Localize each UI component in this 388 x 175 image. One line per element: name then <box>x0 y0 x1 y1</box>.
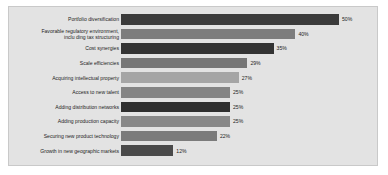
bar-track: 22% <box>121 131 377 142</box>
bar-row: Acquiring intellectual property27% <box>9 70 377 85</box>
bar-track: 29% <box>121 58 377 69</box>
bar-chart-plot-area: Portfolio diversification50%Favorable re… <box>9 7 377 165</box>
category-label: Access to new talent <box>0 89 119 95</box>
bar-track: 35% <box>121 43 377 54</box>
bar-track: 25% <box>121 102 377 113</box>
bar-track: 12% <box>121 145 377 156</box>
bar-value-label: 29% <box>247 60 260 66</box>
bar-value-label: 35% <box>274 45 287 51</box>
bar-value-label: 25% <box>230 104 243 110</box>
bar <box>121 145 173 156</box>
bar <box>121 72 239 83</box>
category-label: Cost synergies <box>0 45 119 51</box>
bar-value-label: 27% <box>239 75 252 81</box>
bar <box>121 58 247 69</box>
bar-value-label: 25% <box>230 89 243 95</box>
bar <box>121 29 295 40</box>
bar-row: Access to new talent25% <box>9 85 377 100</box>
bar-row: Adding production capacity25% <box>9 114 377 129</box>
category-label: Growth in new geographic markets <box>0 148 119 154</box>
bar-value-label: 50% <box>339 16 352 22</box>
category-label: Acquiring intellectual property <box>0 75 119 81</box>
bar-row: Securing new product technology22% <box>9 129 377 144</box>
bar-row: Portfolio diversification50% <box>9 12 377 27</box>
bar <box>121 14 339 25</box>
category-label: Securing new product technology <box>0 133 119 139</box>
bar-value-label: 25% <box>230 118 243 124</box>
category-label: Favorable regulatory environment, inclu … <box>0 28 119 40</box>
bar-row: Favorable regulatory environment, inclu … <box>9 27 377 42</box>
bar-value-label: 22% <box>217 133 230 139</box>
bar-track: 50% <box>121 14 377 25</box>
category-label: Scale efficiencies <box>0 60 119 66</box>
category-label: Portfolio diversification <box>0 16 119 22</box>
bar-track: 25% <box>121 87 377 98</box>
category-label: Adding production capacity <box>0 118 119 124</box>
bar <box>121 43 274 54</box>
bar-track: 27% <box>121 72 377 83</box>
bar-row: Growth in new geographic markets12% <box>9 143 377 158</box>
bar <box>121 131 217 142</box>
bar-row: Adding distribution networks25% <box>9 100 377 115</box>
category-label: Adding distribution networks <box>0 104 119 110</box>
bar-track: 25% <box>121 116 377 127</box>
bar <box>121 102 230 113</box>
bar-value-label: 12% <box>173 148 186 154</box>
bar <box>121 116 230 127</box>
bar-track: 40% <box>121 29 377 40</box>
bar <box>121 87 230 98</box>
bar-value-label: 40% <box>295 31 308 37</box>
bar-row: Cost synergies35% <box>9 41 377 56</box>
bar-row: Scale efficiencies29% <box>9 56 377 71</box>
chart-frame: Portfolio diversification50%Favorable re… <box>8 6 378 166</box>
